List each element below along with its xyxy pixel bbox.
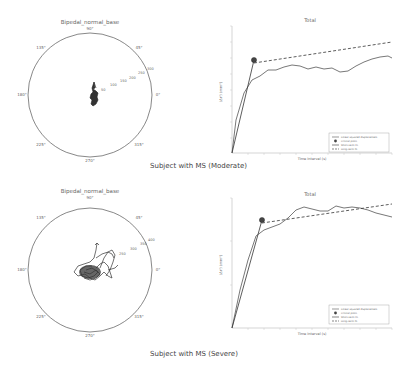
svg-text:Long-term fit: Long-term fit (341, 148, 357, 151)
polar-plot-moderate: Bipedal_normal_base 90° 45° 135° 0° 180°… (17, 19, 160, 163)
svg-text:Critical point: Critical point (341, 140, 357, 143)
polar-title: Bipedal_normal_base (61, 19, 120, 26)
y-ticks (230, 26, 232, 138)
y-ticks (230, 198, 232, 285)
angle-label-315: 315° (134, 314, 144, 319)
radial-label: 50 (101, 88, 105, 92)
y-axis-label: ⟨Δr²⟩ (mm²) (219, 81, 223, 102)
angle-label-270: 270° (85, 158, 95, 163)
angle-label-225: 225° (36, 314, 46, 319)
angle-label-225: 225° (36, 142, 46, 147)
x-axis-label: Time interval (s) (297, 157, 327, 161)
caption-moderate: Subject with MS (Moderate) (150, 162, 247, 170)
radial-label: 200 (129, 76, 136, 80)
radial-label: 250 (119, 252, 126, 256)
angle-label-315: 315° (134, 142, 144, 147)
angle-label-135: 135° (36, 215, 46, 220)
legend: Linear squared displacement Critical poi… (329, 305, 389, 324)
angle-label-90: 90° (86, 195, 93, 200)
angle-label-270: 270° (85, 333, 95, 338)
short-term-fit-line (232, 220, 262, 328)
radial-label: 300 (130, 247, 137, 251)
radial-label: 400 (148, 238, 155, 242)
angle-label-180: 180° (17, 92, 27, 97)
polar-outer-ring (28, 33, 152, 157)
x-ticks (248, 328, 392, 330)
x-axis-label: Time interval (s) (297, 332, 327, 336)
svg-text:Short-term fit: Short-term fit (341, 144, 358, 147)
angle-label-90: 90° (86, 26, 93, 31)
radial-label: 300 (147, 67, 154, 71)
angle-label-135: 135° (36, 45, 46, 50)
radial-label: 250 (138, 71, 145, 75)
long-term-fit-line (262, 204, 392, 223)
y-axis-label: ⟨Δr²⟩ (mm²) (219, 254, 223, 275)
svg-text:Short-term fit: Short-term fit (341, 316, 358, 319)
legend: Linear squared displacement Critical poi… (329, 133, 389, 152)
angle-label-0: 0° (156, 92, 161, 97)
angle-label-45: 45° (135, 45, 142, 50)
short-term-fit-line (232, 60, 254, 153)
svg-text:Linear squared displacement: Linear squared displacement (341, 136, 377, 139)
cop-trajectory-dense-core (79, 265, 101, 279)
svg-text:Critical point: Critical point (341, 312, 357, 315)
radial-label: 350 (140, 242, 147, 246)
angle-label-45: 45° (135, 215, 142, 220)
svg-text:Linear squared displacement: Linear squared displacement (341, 308, 377, 311)
diffusion-title: Total (303, 17, 316, 23)
figure-canvas: Bipedal_normal_base 90° 45° 135° 0° 180°… (0, 0, 413, 367)
diffusion-title: Total (303, 191, 316, 197)
angle-label-0: 0° (156, 267, 161, 272)
radial-label: 100 (110, 83, 117, 87)
angle-label-180: 180° (17, 267, 27, 272)
caption-severe: Subject with MS (Severe) (150, 350, 238, 358)
diffusion-plot-moderate: Total ⟨Δr²⟩ (mm²) Time interval (s) Line… (219, 17, 392, 161)
radial-label: 150 (120, 79, 127, 83)
cop-trajectory (90, 82, 98, 106)
polar-title: Bipedal_normal_base (61, 188, 120, 195)
critical-point-marker (259, 217, 264, 222)
critical-point-marker (251, 57, 256, 62)
polar-plot-severe: Bipedal_normal_base 90° 45° 135° 0° 180°… (17, 188, 160, 338)
diffusion-plot-severe: Total ⟨Δr²⟩ (mm²) Time interval (s) Line… (219, 191, 392, 336)
svg-text:Long-term fit: Long-term fit (341, 320, 357, 323)
x-ticks (248, 153, 392, 155)
long-term-fit-line (254, 42, 392, 63)
